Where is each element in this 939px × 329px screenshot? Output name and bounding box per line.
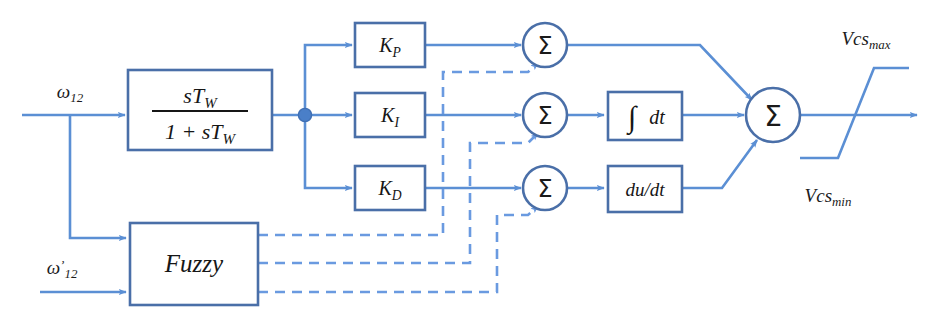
block-gain-kp: KP xyxy=(355,23,425,67)
summer-integral: Σ xyxy=(523,93,567,137)
block-gain-kd: KD xyxy=(355,166,425,210)
wire-omega-branch-to-fuzzy xyxy=(70,115,126,238)
label-omega-prime-12: ω’12 xyxy=(47,257,78,281)
summer-derivative-symbol: Σ xyxy=(537,175,552,203)
label-omega-12: ω12 xyxy=(57,81,84,105)
integrator-dt-label: dt xyxy=(649,106,665,128)
summer-output-symbol: Σ xyxy=(764,100,782,133)
derivative-label: du/dt xyxy=(625,179,665,200)
block-gain-ki: KI xyxy=(355,93,425,137)
block-washout-filter: sTW 1 + sTW xyxy=(128,70,272,150)
wire-node-to-kd xyxy=(305,115,352,188)
summer-proportional: Σ xyxy=(523,23,567,67)
summer-integral-symbol: Σ xyxy=(537,102,552,130)
wire-node-to-kp xyxy=(305,45,352,115)
wire-derivative-to-mainsum xyxy=(682,140,757,188)
block-diagram-canvas: sTW 1 + sTW KP KI xyxy=(0,0,939,329)
summer-proportional-symbol: Σ xyxy=(537,32,552,60)
signal-branch-node xyxy=(298,108,311,121)
label-vcs-max: Vcsmax xyxy=(842,28,891,52)
fuzzy-label: Fuzzy xyxy=(164,250,224,277)
block-fuzzy: Fuzzy xyxy=(130,223,258,305)
function-blocks: sTW 1 + sTW KP KI xyxy=(128,23,682,305)
diagram-svg: sTW 1 + sTW KP KI xyxy=(0,0,939,329)
integrator-symbol: ∫ xyxy=(626,100,638,136)
label-vcs-min: Vcsmin xyxy=(805,185,852,209)
summer-output: Σ xyxy=(746,88,800,142)
block-integrator: ∫ dt xyxy=(608,92,682,140)
summer-derivative: Σ xyxy=(523,166,567,210)
block-derivative: du/dt xyxy=(608,166,682,212)
wire-fuzzy-to-sumd xyxy=(258,206,538,292)
limiter-saturation-curve xyxy=(800,68,909,158)
